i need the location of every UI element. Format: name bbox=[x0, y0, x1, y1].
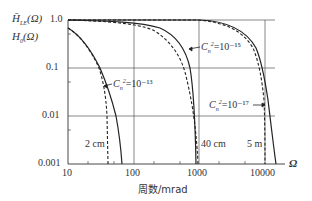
annotation-cn2-13: Cn2=10⁻¹³ bbox=[113, 78, 153, 91]
y-tick-0.1: 0.1 bbox=[46, 61, 59, 72]
annotation-cn2-17: Cn2=10⁻¹⁷ bbox=[209, 99, 249, 112]
annotation-arrows bbox=[104, 47, 265, 107]
curve-label-2cm: 2 cm bbox=[85, 138, 105, 149]
x-tick-10: 10 bbox=[62, 167, 72, 178]
x-axis-symbol: Ω bbox=[289, 157, 297, 169]
annotation-cn2-15: Cn2=10⁻¹⁵ bbox=[201, 41, 241, 54]
y-axis-label-le: H̄LE(Ω) bbox=[12, 12, 42, 26]
y-axis-label-0: H0(Ω) bbox=[12, 30, 38, 44]
y-tick-0.001: 0.001 bbox=[38, 157, 61, 168]
y-tick-1: 1.0 bbox=[50, 13, 63, 24]
curve-label-5m: 5 m bbox=[247, 138, 262, 149]
y-tick-0.01: 0.01 bbox=[42, 109, 60, 120]
x-tick-1000: 1000 bbox=[187, 167, 207, 178]
x-tick-10000: 10000 bbox=[250, 167, 275, 178]
x-axis-label: 周数/mrad bbox=[138, 181, 188, 196]
x-tick-100: 100 bbox=[125, 167, 140, 178]
curve-label-40cm: 40 cm bbox=[201, 138, 226, 149]
